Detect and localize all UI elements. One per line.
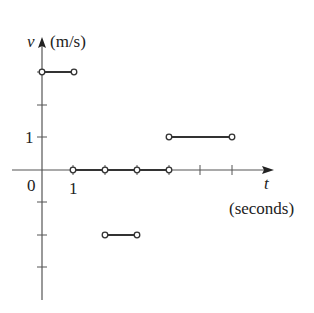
- y-tick-label-1: 1: [25, 128, 34, 147]
- t-label: t: [264, 174, 270, 193]
- t-unit-label: (seconds): [229, 199, 294, 218]
- origin-label: 0: [27, 176, 36, 195]
- velocity-chart: v (m/s) 1 0 1 t (seconds): [0, 0, 314, 313]
- v-unit-label: (m/s): [50, 32, 86, 51]
- data-segments: [42, 72, 232, 235]
- x-tick-label-1: 1: [69, 179, 78, 198]
- open-endpoints: [39, 69, 235, 238]
- v-label: v: [27, 32, 35, 51]
